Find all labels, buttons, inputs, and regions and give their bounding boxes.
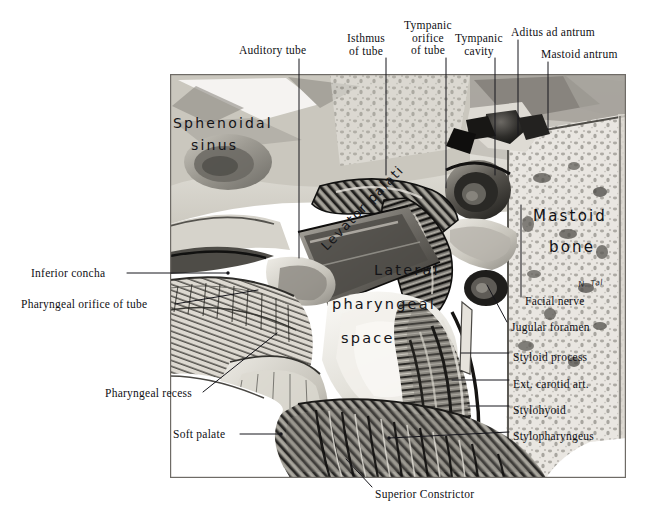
label-aditus-ad-antrum: Aditus ad antrum [511, 26, 595, 39]
label-tympanic-orifice-line1: Tympanic [398, 19, 458, 32]
label-isthmus-of-tube: Isthmus of tube [336, 32, 396, 57]
label-tympanic-orifice-line2: orifice [398, 32, 458, 45]
label-stylohyoid: Stylohyoid [513, 404, 566, 417]
label-inferior-concha: Inferior concha [31, 267, 105, 280]
handwritten-sphenoidal-sinus-line2: sinus [191, 137, 238, 153]
figure-canvas: Sphenoidal sinus Lateral pharyngeal spac… [0, 0, 651, 528]
label-tympanic-orifice-of-tube: Tympanic orifice of tube [398, 19, 458, 57]
handwritten-lateral-pharyngeal-space-line1: Lateral [374, 262, 440, 278]
label-isthmus-line2: of tube [336, 45, 396, 58]
handwritten-lateral-pharyngeal-space-line2: pharyngeal [332, 296, 436, 312]
label-tympanic-cavity: Tympanic cavity [450, 32, 508, 57]
label-tympanic-orifice-line3: of tube [398, 44, 458, 57]
label-soft-palate: Soft palate [173, 428, 225, 441]
label-facial-nerve: Facial nerve [525, 295, 585, 308]
label-auditory-tube: Auditory tube [239, 44, 306, 57]
label-tympanic-cavity-line1: Tympanic [450, 32, 508, 45]
label-isthmus-line1: Isthmus [336, 32, 396, 45]
handwritten-lateral-pharyngeal-space-line3: space [341, 330, 395, 346]
label-pharyngeal-recess: Pharyngeal recess [105, 387, 192, 400]
label-styloid-process: Styloid process [513, 351, 587, 364]
label-pharyngeal-orifice-of-tube: Pharyngeal orifice of tube [21, 298, 147, 311]
label-tympanic-cavity-line2: cavity [450, 45, 508, 58]
label-superior-constrictor: Superior Constrictor [375, 488, 474, 501]
label-mastoid-antrum: Mastoid antrum [541, 48, 618, 61]
handwritten-mastoid-bone-line2: bone [549, 238, 595, 256]
label-stylopharyngeus: Stylopharyngeus [513, 430, 594, 443]
label-ext-carotid-art: Ext. carotid art. [513, 378, 589, 391]
label-jugular-foramen: Jugular foramen [511, 321, 590, 334]
handwritten-mastoid-bone-line1: Mastoid [533, 207, 607, 225]
handwritten-sphenoidal-sinus-line1: Sphenoidal [173, 115, 273, 131]
